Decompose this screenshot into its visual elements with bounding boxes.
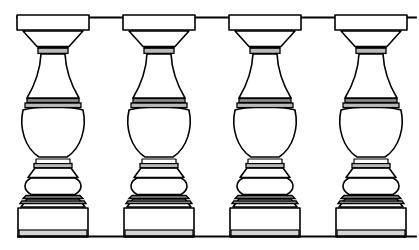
upper-ring-band — [250, 47, 280, 53]
vase-bowl — [22, 107, 84, 157]
lower-cove — [134, 168, 184, 178]
plinth-base — [124, 208, 194, 237]
mid-ring-band — [131, 99, 187, 108]
torus-ring — [237, 178, 293, 195]
lower-ring-band — [352, 159, 390, 168]
plinth-cap — [126, 196, 192, 208]
mid-ring-band — [237, 99, 293, 108]
vase-bowl — [128, 107, 190, 157]
lower-ring-band — [140, 159, 178, 168]
vase-bowl — [340, 107, 402, 157]
lower-ring-band — [246, 159, 284, 168]
cap-block — [335, 15, 407, 30]
cap-block — [123, 15, 195, 30]
lower-cove — [240, 168, 290, 178]
cap-block — [17, 15, 89, 30]
plinth-base — [18, 208, 88, 237]
upper-ring-band — [38, 47, 68, 53]
plinth-base — [230, 208, 300, 237]
plinth-cap — [20, 196, 86, 208]
cap-block — [229, 15, 301, 30]
torus-ring — [131, 178, 187, 195]
lower-cove — [28, 168, 78, 178]
lower-ring-band — [34, 159, 72, 168]
vase-bowl — [234, 107, 296, 157]
plinth-cap — [338, 196, 404, 208]
torus-ring — [25, 178, 81, 195]
mid-ring-band — [25, 99, 81, 108]
plinth-cap — [232, 196, 298, 208]
balustrade-illustration: Balustrade Line Drawing Architectural ba… — [0, 0, 419, 250]
plinth-base — [336, 208, 406, 237]
upper-ring-band — [356, 47, 386, 53]
mid-ring-band — [343, 99, 399, 108]
balustrade-drawing — [0, 0, 419, 250]
lower-cove — [346, 168, 396, 178]
torus-ring — [343, 178, 399, 195]
upper-ring-band — [144, 47, 174, 53]
